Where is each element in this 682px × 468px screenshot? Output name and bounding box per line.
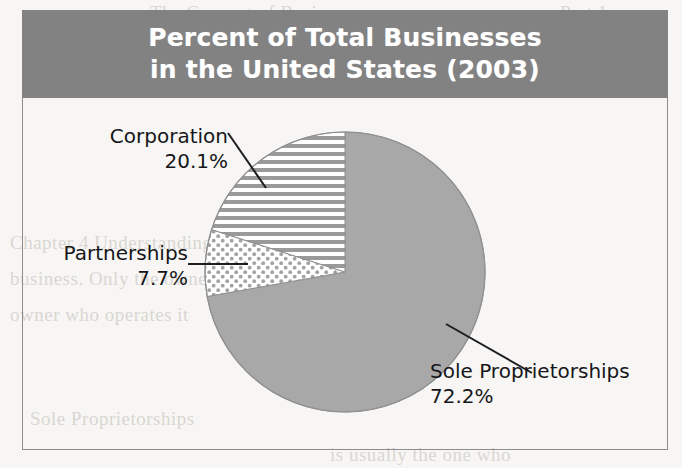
callout-sole-proprietorships: Sole Proprietorships 72.2% — [430, 359, 630, 409]
callout-partnerships-value: 7.7% — [28, 266, 188, 291]
callout-sole-name: Sole Proprietorships — [430, 359, 630, 383]
callout-partnerships: Partnerships 7.7% — [28, 241, 188, 291]
chart-title-line-2: in the United States (2003) — [150, 54, 540, 86]
callout-corporation-value: 20.1% — [88, 149, 228, 174]
callout-sole-value: 72.2% — [430, 384, 630, 409]
callout-corporation-name: Corporation — [110, 124, 228, 148]
chart-title-line-1: Percent of Total Businesses — [148, 22, 542, 54]
chart-title-bar: Percent of Total Businesses in the Unite… — [22, 10, 668, 98]
callout-corporation: Corporation 20.1% — [88, 124, 228, 174]
callout-partnerships-name: Partnerships — [64, 241, 188, 265]
